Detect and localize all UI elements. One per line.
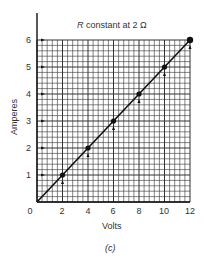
x-tick-0: 0: [22, 206, 38, 216]
y-tick-5: 5: [21, 62, 31, 72]
y-tick-4: 4: [21, 89, 31, 99]
chart-title: R constant at 2 Ω: [77, 20, 147, 30]
y-tick-1: 1: [21, 170, 31, 180]
y-tick-6: 6: [21, 35, 31, 45]
y-tick-3: 3: [21, 116, 31, 126]
y-tick-2: 2: [21, 143, 31, 153]
x-axis-label: Volts: [102, 221, 122, 231]
x-tick-6: 6: [105, 206, 121, 216]
y-axis-label: Amperes: [9, 99, 19, 135]
x-tick-12: 12: [182, 206, 198, 216]
figure-caption: (c): [105, 243, 116, 253]
x-tick-2: 2: [54, 206, 70, 216]
x-tick-8: 8: [131, 206, 147, 216]
x-tick-10: 10: [156, 206, 172, 216]
x-tick-4: 4: [80, 206, 96, 216]
